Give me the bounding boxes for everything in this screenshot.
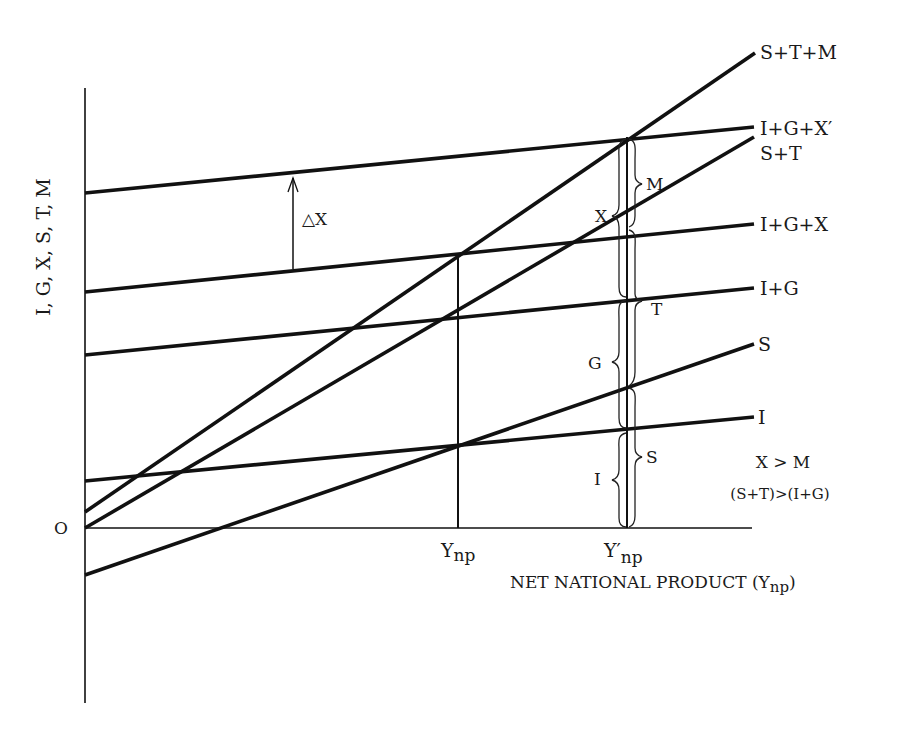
brace-label-g: G [588,353,602,373]
label-s-t: S+T [760,142,802,164]
brace-t [629,230,642,386]
delta-x-arrow-icon [288,178,298,269]
brace-m [629,139,642,227]
line-spt [85,137,754,528]
x-axis-label: NET NATIONAL PRODUCT (Ynp) [510,572,796,596]
label-s: S [758,333,771,355]
y-axis-label: I, G, X, S, T, M [32,178,54,316]
label-s-t-m: S+T+M [760,41,837,63]
brace-label-s: S [646,447,658,467]
brace-label-x: X [595,206,608,226]
brace-i [612,433,626,527]
brace-label-i: I [594,469,601,489]
brace-label-t: T [651,299,663,319]
label-i-g-x: I+G+X [760,213,829,235]
tick-ynp: Ynp [440,539,475,565]
label-i-g-x-prime: I+G+X′ [760,117,832,139]
origin-label: O [54,518,68,538]
condition-st-gt-ig: (S+T)>(I+G) [730,485,829,503]
brace-label-m: M [646,174,663,194]
label-i-g: I+G [760,277,799,299]
delta-x-label: △X [302,209,328,229]
condition-x-gt-m: X > M [756,452,811,472]
label-i: I [758,406,766,428]
tick-ynp-prime: Y′np [603,539,643,567]
brace-g [612,300,626,428]
economics-diagram: I, G, X, S, T, M O S+T+M I+G+X′ S+T I+G+… [0,0,897,736]
brace-s [629,388,642,527]
